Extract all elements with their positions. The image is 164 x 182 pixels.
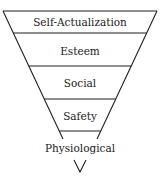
level-label-safety: Safety: [63, 110, 97, 122]
level-label-self-actualization: Self-Actualization: [33, 16, 127, 28]
pyramid-left-edge: [3, 11, 63, 139]
inverted-pyramid-diagram: Self-Actualization Esteem Social Safety …: [0, 0, 164, 182]
level-label-esteem: Esteem: [60, 45, 100, 57]
bottom-v-marker-icon: [74, 160, 86, 172]
pyramid-right-edge: [97, 11, 157, 139]
level-label-physiological: Physiological: [45, 142, 116, 154]
level-label-social: Social: [64, 77, 97, 89]
